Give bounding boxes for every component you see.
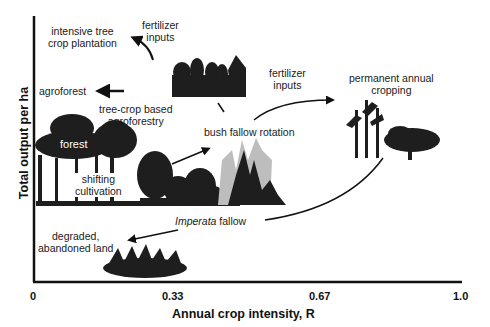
x-tick-1: 1.0: [453, 290, 468, 302]
arrow-treecrop-line: [218, 103, 224, 112]
arrow-to-degraded: [130, 230, 178, 240]
label-line: tree-crop based: [99, 103, 173, 115]
crop-vegetation-icon: [346, 100, 440, 160]
label-line: inputs: [269, 79, 306, 91]
label-line: shifting: [75, 173, 122, 185]
label-rest: fallow: [216, 215, 246, 227]
label-line: cropping: [349, 84, 434, 96]
label-line: abandoned land: [38, 242, 113, 254]
label-line: inputs: [142, 31, 179, 43]
arrow-to-permanent: [254, 100, 332, 120]
label-imperata-fallow: Imperata fallow: [175, 215, 246, 227]
label-line: degraded,: [38, 230, 113, 242]
label-line: cultivation: [75, 185, 122, 197]
label-bush-fallow-rotation: bush fallow rotation: [204, 126, 294, 138]
label-agroforest: agroforest: [39, 85, 86, 97]
label-line: fertilizer: [269, 67, 306, 79]
x-tick-033: 0.33: [162, 290, 183, 302]
label-intensive-tree-crop: intensive tree crop plantation: [48, 25, 117, 49]
label-line: crop plantation: [48, 37, 117, 49]
x-tick-0: 0: [30, 290, 36, 302]
bush-fallow-vegetation-icon: [172, 55, 246, 97]
label-permanent-annual-cropping: permanent annual cropping: [349, 72, 434, 96]
imperata-grass-icon: [103, 244, 187, 278]
label-degraded-land: degraded, abandoned land: [38, 230, 113, 254]
label-forest: forest: [60, 138, 88, 150]
y-axis-title: Total output per ha: [17, 73, 31, 213]
label-line: intensive tree: [48, 25, 117, 37]
arrow-to-bush-fallow: [172, 149, 208, 164]
label-fertilizer-inputs-1: fertilizer inputs: [142, 19, 179, 43]
label-line: agroforestry: [99, 115, 173, 127]
x-tick-067: 0.67: [309, 290, 330, 302]
x-axis-title: Annual crop intensity, R: [172, 307, 315, 321]
label-line: permanent annual: [349, 72, 434, 84]
diagram-canvas: [0, 0, 490, 327]
label-italic: Imperata: [175, 215, 216, 227]
fire-icon: [218, 138, 286, 205]
label-line: fertilizer: [142, 19, 179, 31]
label-shifting-cultivation: shifting cultivation: [74, 173, 123, 197]
label-fertilizer-inputs-2: fertilizer inputs: [269, 67, 306, 91]
label-tree-crop-agroforestry: tree-crop based agroforestry: [99, 103, 173, 127]
arrow-imperata-curve: [265, 158, 383, 220]
